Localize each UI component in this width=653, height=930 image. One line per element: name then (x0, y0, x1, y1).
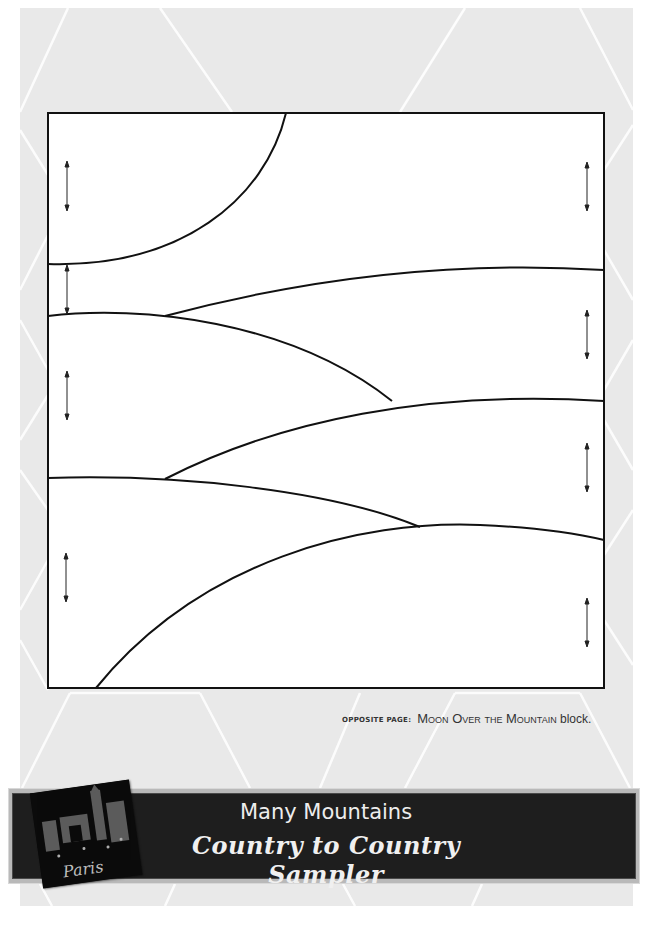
caption-lead: Opposite page: (342, 716, 411, 724)
figure-caption: Opposite page:Moon Over the Mountain blo… (342, 711, 591, 726)
paris-photo: Paris (30, 780, 142, 889)
caption-block-name: Moon Over the Mountain (417, 711, 556, 726)
book-subtitle: Country to Country Sampler (150, 831, 502, 889)
caption-suffix: block. (557, 712, 592, 726)
book-title: Many Mountains (165, 800, 487, 824)
block-outline (48, 113, 604, 688)
paris-photo-image: Paris (30, 780, 142, 889)
